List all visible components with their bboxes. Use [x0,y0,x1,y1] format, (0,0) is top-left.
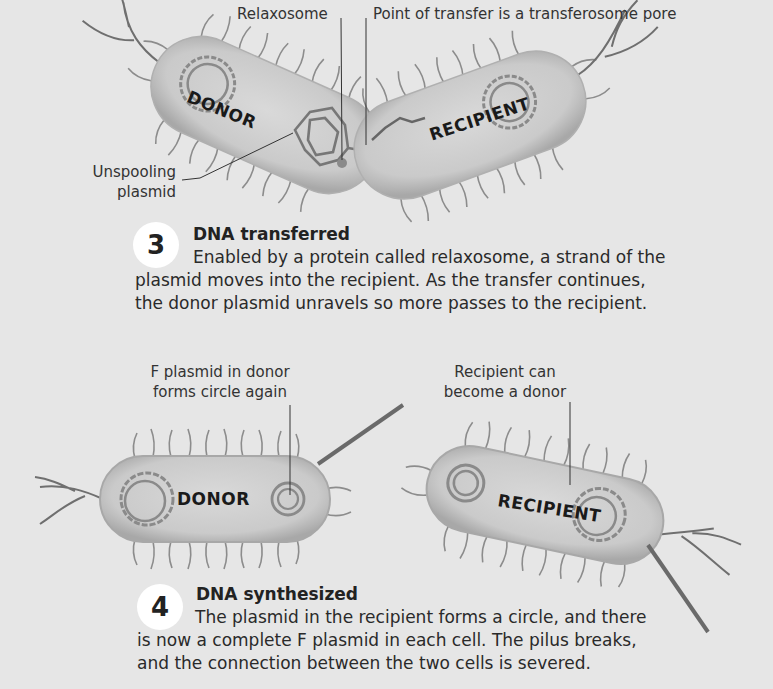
step-3-description: Enabled by a protein called relaxosome, … [135,246,735,315]
step-3-line3: the donor plasmid unravels so more passe… [135,292,735,315]
f-plasmid-label-line2: forms circle again [120,382,320,402]
panel4-donor-label: DONOR [177,489,250,509]
broken-pilus-icon [318,405,403,464]
diagram-artwork [0,0,773,689]
recipient-can-become-donor-label: Recipient can become a donor [420,362,590,402]
step-3-line1: Enabled by a protein called relaxosome, … [193,247,666,267]
step-4-description: The plasmid in the recipient forms a cir… [137,606,737,675]
point-of-transfer-label: Point of transfer is a transferosome por… [373,4,676,24]
unspooling-label-line2: plasmid [70,182,176,202]
step-4-line2: is now a complete F plasmid in each cell… [137,629,737,652]
flagellum-icon [35,477,103,524]
recipient-can-label-line2: become a donor [420,382,590,402]
step-4-title: DNA synthesized [196,584,358,604]
recipient-can-label-line1: Recipient can [420,362,590,382]
step-3-line2: plasmid moves into the recipient. As the… [135,269,735,292]
step-4-line3: and the connection between the two cells… [137,652,737,675]
step-3-title: DNA transferred [193,224,350,244]
flagellum-icon [654,518,743,576]
f-plasmid-label-line1: F plasmid in donor [120,362,320,382]
step-4-line1: The plasmid in the recipient forms a cir… [195,607,647,627]
f-plasmid-label: F plasmid in donor forms circle again [120,362,320,402]
unspooling-label-line1: Unspooling [70,162,176,182]
relaxosome-label: Relaxosome [237,4,328,24]
unspooling-plasmid-label: Unspooling plasmid [70,162,176,202]
